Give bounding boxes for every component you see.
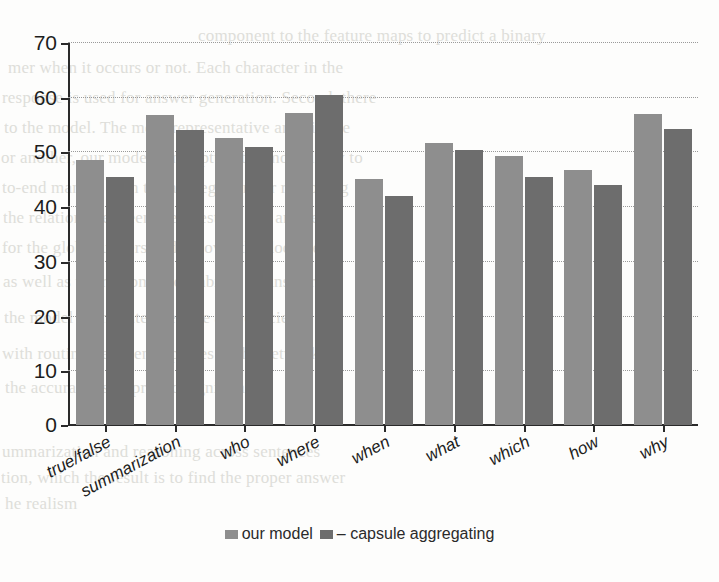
- bar: [146, 115, 174, 425]
- bar-group: [419, 42, 489, 425]
- y-axis-tick-label: 30: [34, 250, 57, 274]
- bar: [176, 130, 204, 425]
- x-axis-category-label: who: [217, 432, 254, 464]
- figure-page: component to the feature maps to predict…: [0, 0, 719, 582]
- bar-group: [489, 42, 559, 425]
- x-axis-label-slot: when: [349, 428, 419, 508]
- bleed-text-line: he realism: [5, 494, 77, 514]
- y-axis-tick-label: 70: [34, 31, 57, 55]
- y-axis-tick-label: 0: [45, 413, 57, 437]
- legend-entry: our model: [225, 525, 313, 543]
- y-axis-tick: [61, 207, 68, 209]
- bar: [285, 113, 313, 425]
- x-axis-label-slot: where: [279, 428, 349, 508]
- bar-group: [558, 42, 628, 425]
- bar: [425, 143, 453, 425]
- legend-entry: – capsule aggregating: [320, 525, 494, 543]
- x-axis-label-slot: how: [558, 428, 628, 508]
- bar: [525, 177, 553, 425]
- x-axis-label-slot: who: [210, 428, 280, 508]
- bar-group: [279, 42, 349, 425]
- bar-group: [70, 42, 140, 425]
- bar: [245, 147, 273, 425]
- x-axis-category-label: what: [422, 432, 463, 467]
- bar: [455, 150, 483, 425]
- x-axis-category-labels: true/falsesummarizationwhowherewhenwhatw…: [70, 428, 698, 508]
- y-axis-tick: [61, 262, 68, 264]
- x-axis-category-label: when: [348, 432, 393, 469]
- legend-swatch-our-model: [225, 530, 238, 539]
- legend-swatch-capsule-aggregating: [320, 530, 333, 539]
- bar: [634, 114, 662, 425]
- y-axis-tick: [61, 371, 68, 373]
- bar-groups: [70, 42, 698, 425]
- x-axis-category-label: why: [636, 432, 672, 464]
- bar: [564, 170, 592, 425]
- legend-label: our model: [242, 525, 313, 543]
- x-axis-category-label: how: [566, 432, 603, 464]
- bar: [664, 129, 692, 425]
- bar: [385, 196, 413, 425]
- legend-label: – capsule aggregating: [337, 525, 494, 543]
- y-axis-tick: [61, 425, 68, 427]
- bar-group: [140, 42, 210, 425]
- y-axis-tick: [61, 98, 68, 100]
- bar-group: [628, 42, 698, 425]
- bar: [106, 177, 134, 425]
- y-axis-tick-label: 20: [34, 305, 57, 329]
- y-axis-tick: [61, 317, 68, 319]
- bar-group: [349, 42, 419, 425]
- x-axis-label-slot: why: [628, 428, 698, 508]
- bar: [594, 185, 622, 425]
- bar: [495, 156, 523, 425]
- bar: [215, 138, 243, 425]
- bar: [355, 179, 383, 425]
- y-axis-tick: [61, 152, 68, 154]
- bar-group: [210, 42, 280, 425]
- y-axis-tick-label: 60: [34, 86, 57, 110]
- x-axis-label-slot: which: [489, 428, 559, 508]
- x-axis-category-label: where: [273, 432, 323, 471]
- x-axis-category-label: which: [485, 432, 533, 470]
- plot-area: 010203040506070: [68, 42, 698, 425]
- y-axis-tick-label: 40: [34, 195, 57, 219]
- y-axis-tick-label: 50: [34, 140, 57, 164]
- chart-legend: our model– capsule aggregating: [0, 525, 719, 543]
- x-axis-label-slot: what: [419, 428, 489, 508]
- bar: [315, 95, 343, 425]
- x-axis-label-slot: summarization: [140, 428, 210, 508]
- y-axis-tick: [61, 43, 68, 45]
- bar: [76, 160, 104, 425]
- y-axis-tick-label: 10: [34, 359, 57, 383]
